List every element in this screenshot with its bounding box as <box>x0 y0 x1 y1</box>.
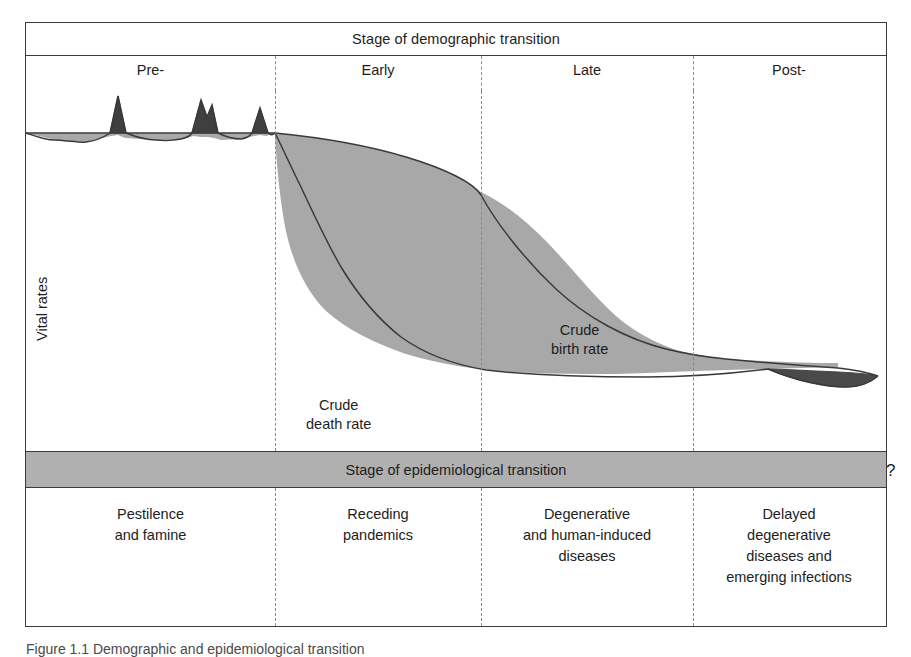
stage-divider-3-labels <box>693 56 694 91</box>
epi-cell-delayed-degenerative-diseases: Delayed degenerative diseases and emergi… <box>693 504 885 588</box>
stage-divider-1-epi <box>275 488 276 626</box>
crude-birth-rate-label-line1: Crude <box>551 321 608 340</box>
vital-rates-plot: Vital rates Crude death rate Crude birth… <box>26 91 886 451</box>
crude-death-rate-label-line2: death rate <box>306 415 371 434</box>
epi-cell-3-line1: Degenerative <box>481 504 693 525</box>
stage-divider-2-epi <box>481 488 482 626</box>
demographic-stage-label-row: Pre- Early Late Post- <box>26 56 886 91</box>
epi-cell-3-line2: and human-induced <box>481 525 693 546</box>
epi-cell-4-line3: diseases and <box>693 546 885 567</box>
mortality-crisis-spike-3 <box>252 108 268 133</box>
figure-frame: Stage of demographic transition Pre- Ear… <box>25 22 887 627</box>
stage-divider-3-epi <box>693 488 694 626</box>
epi-cell-4-line1: Delayed <box>693 504 885 525</box>
epi-cell-degenerative-and-human-induced-diseases: Degenerative and human-induced diseases <box>481 504 693 567</box>
stage-divider-1-plot <box>275 91 276 451</box>
crude-birth-rate-label-line2: birth rate <box>551 340 608 359</box>
epi-cell-1-line1: Pestilence <box>26 504 275 525</box>
stage-label-post: Post- <box>693 62 885 78</box>
epi-cell-2-line2: pandemics <box>275 525 481 546</box>
question-mark-annotation: ? <box>886 462 895 479</box>
epi-cell-4-line2: degenerative <box>693 525 885 546</box>
epi-cell-3-line3: diseases <box>481 546 693 567</box>
y-axis-label-vital-rates: Vital rates <box>34 277 50 341</box>
epi-cell-1-line2: and famine <box>26 525 275 546</box>
epi-cell-pestilence-and-famine: Pestilence and famine <box>26 504 275 546</box>
vital-rates-chart-svg <box>26 91 885 451</box>
demographic-transition-header: Stage of demographic transition <box>26 23 886 56</box>
stage-label-late: Late <box>481 62 693 78</box>
stage-divider-1-labels <box>275 56 276 91</box>
stage-label-early: Early <box>275 62 481 78</box>
stage-divider-2-plot <box>481 91 482 451</box>
stage-divider-2-labels <box>481 56 482 91</box>
crude-death-rate-label-line1: Crude <box>306 396 371 415</box>
epidemiological-stage-row: Pestilence and famine Receding pandemics… <box>26 488 886 626</box>
epi-cell-receding-pandemics: Receding pandemics <box>275 504 481 546</box>
mortality-crisis-spike-1 <box>110 96 126 133</box>
epi-cell-2-line1: Receding <box>275 504 481 525</box>
epi-cell-4-line4: emerging infections <box>693 567 885 588</box>
crude-birth-rate-label: Crude birth rate <box>551 321 608 358</box>
epidemiological-transition-header: Stage of epidemiological transition <box>26 451 886 488</box>
stage-label-pre: Pre- <box>26 62 275 78</box>
figure-caption: Figure 1.1 Demographic and epidemiologic… <box>26 641 365 657</box>
crude-death-rate-label: Crude death rate <box>306 396 371 433</box>
stage-divider-3-plot <box>693 91 694 451</box>
